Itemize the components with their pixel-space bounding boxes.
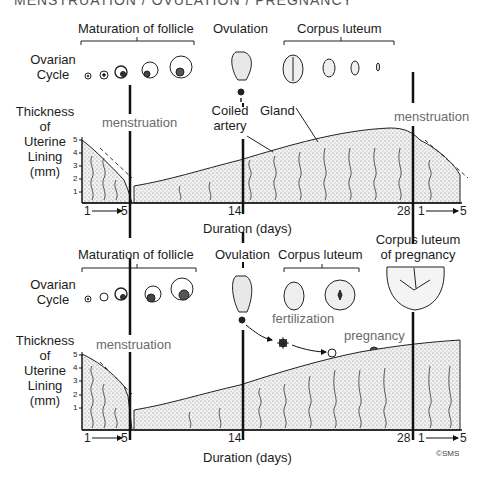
top-ovarian-label-2: Cycle <box>28 67 78 82</box>
bottom-follicles <box>85 278 193 302</box>
pregnancy-label: pregnancy <box>344 328 405 343</box>
top-follicle-bracket <box>81 37 194 45</box>
coiled-artery-label-1: Coiled <box>206 103 254 118</box>
top-tick-5: 5 <box>73 136 77 144</box>
bottom-yaxis-label-4: Lining <box>10 378 80 393</box>
bottom-ovulation-follicle <box>233 276 252 323</box>
bottom-ovulation-label: Ovulation <box>215 247 270 262</box>
bottom-tick-4: 4 <box>73 364 77 372</box>
top-yaxis-label-5: (mm) <box>10 164 80 179</box>
bottom-menstruation-label: menstruation <box>96 337 171 352</box>
top-corpus-luteum-label: Corpus luteum <box>297 21 382 36</box>
gland-label: Gland <box>260 103 295 118</box>
bottom-duration-label: Duration (days) <box>203 450 292 465</box>
top-yaxis-label-2: of <box>10 119 80 134</box>
bottom-next-day-1: 1 <box>418 431 425 446</box>
bottom-follicle-bracket <box>82 264 196 272</box>
top-follicle-label: Maturation of follicle <box>78 21 194 36</box>
bottom-day-1: 1 <box>84 431 91 446</box>
top-menstruation-right: menstruation <box>394 109 469 124</box>
bottom-yaxis-label-2: of <box>10 348 80 363</box>
bottom-day-28: 28 <box>397 431 410 446</box>
bottom-tick-2: 2 <box>73 391 77 399</box>
top-corpus-bracket <box>284 37 394 45</box>
top-next-day-5: 5 <box>460 204 467 219</box>
bottom-yaxis-label-3: Uterine <box>10 363 80 378</box>
top-uterine-lining <box>82 128 468 203</box>
bottom-follicle-label: Maturation of follicle <box>78 247 194 262</box>
bottom-ovarian-label-2: Cycle <box>28 292 78 307</box>
bottom-yaxis-label-5: (mm) <box>10 393 80 408</box>
top-yaxis-label-4: Lining <box>10 149 80 164</box>
top-yaxis-label-3: Uterine <box>10 134 80 149</box>
cl-pregnancy-label-1: Corpus luteum <box>370 232 466 247</box>
bottom-tick-3: 3 <box>73 377 77 385</box>
top-menstruation-left: menstruation <box>102 115 177 130</box>
fertilization-label: fertilization <box>272 311 334 326</box>
bottom-tick-1: 1 <box>73 404 77 412</box>
top-tick-2: 2 <box>73 175 77 183</box>
top-corpus-luteum <box>283 55 380 83</box>
top-day-1: 1 <box>84 204 91 219</box>
top-ovulation-follicle <box>232 52 252 102</box>
bottom-corpus-luteum-label: Corpus luteum <box>278 247 363 262</box>
top-next-day-1: 1 <box>418 204 425 219</box>
corpus-luteum-of-pregnancy <box>387 267 444 310</box>
top-ovarian-label-1: Ovarian <box>28 52 78 67</box>
bottom-yaxis-label-1: Thickness <box>10 333 80 348</box>
top-tick-3: 3 <box>73 162 77 170</box>
bottom-tick-5: 5 <box>73 351 77 359</box>
top-yaxis-label-1: Thickness <box>10 104 80 119</box>
bottom-day-14: 14 <box>228 431 241 446</box>
coiled-artery-label-2: artery <box>206 118 254 133</box>
top-follicles <box>85 56 192 79</box>
top-day-14: 14 <box>228 204 241 219</box>
bottom-next-day-5: 5 <box>460 431 467 446</box>
copyright-mark: ©SMS <box>436 446 459 461</box>
top-tick-4: 4 <box>73 149 77 157</box>
top-day-5: 5 <box>121 204 128 219</box>
bottom-corpus-bracket <box>284 264 359 272</box>
cl-pregnancy-label-2: of pregnancy <box>370 247 466 262</box>
top-duration-label: Duration (days) <box>203 221 292 236</box>
bottom-day-5: 5 <box>121 431 128 446</box>
top-tick-1: 1 <box>73 188 77 196</box>
bottom-ovarian-label-1: Ovarian <box>28 277 78 292</box>
top-ovulation-label: Ovulation <box>213 21 268 36</box>
bottom-uterine-lining <box>82 340 460 430</box>
bottom-corpus-luteum <box>284 280 355 310</box>
top-day-28: 28 <box>397 204 410 219</box>
